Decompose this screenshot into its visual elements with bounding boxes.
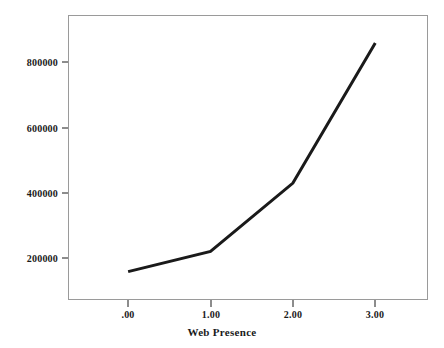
y-tick-label-200000: 200000 — [2, 253, 58, 264]
plot-frame — [69, 16, 428, 300]
x-axis-ticks — [128, 300, 375, 307]
x-axis-title: Web Presence — [0, 326, 444, 338]
x-tick-label-2: 2.00 — [284, 309, 302, 320]
y-tick-label-400000: 400000 — [2, 188, 58, 199]
y-tick-label-800000: 800000 — [2, 57, 58, 68]
x-tick-label-3: 3.00 — [366, 309, 384, 320]
x-tick-label-1: 1.00 — [202, 309, 220, 320]
y-tick-label-600000: 600000 — [2, 123, 58, 134]
x-tick-label-0: .00 — [121, 309, 134, 320]
line-chart: 200000 400000 600000 800000 .00 1.00 2.0… — [0, 0, 444, 348]
y-axis-ticks — [62, 62, 68, 258]
plot-canvas — [0, 0, 444, 348]
